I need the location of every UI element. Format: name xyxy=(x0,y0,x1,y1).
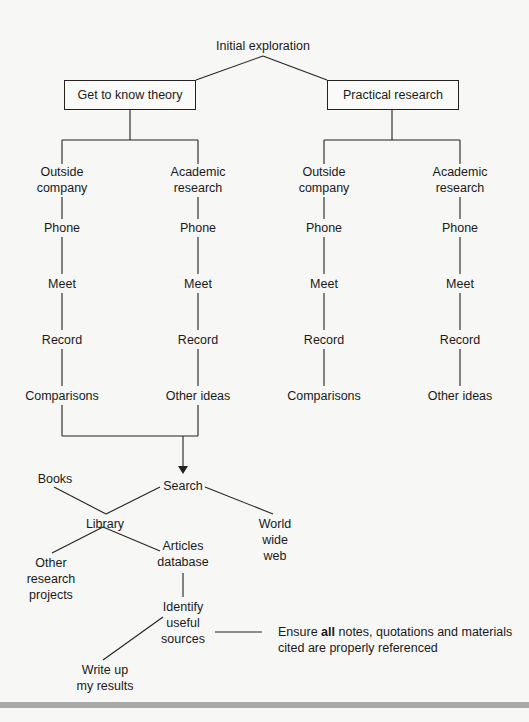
library-node: Library xyxy=(86,516,124,532)
other-research-projects-node: Otherresearchprojects xyxy=(27,555,76,603)
other-ideas-node: Other ideas xyxy=(428,388,493,404)
other-ideas-node: Other ideas xyxy=(166,388,231,404)
phone-node: Phone xyxy=(442,220,478,236)
practical-box: Practical research xyxy=(327,80,459,110)
phone-node: Phone xyxy=(306,220,342,236)
meet-node: Meet xyxy=(48,276,76,292)
world-wide-web-node: Worldwideweb xyxy=(259,516,291,564)
comparisons-node: Comparisons xyxy=(25,388,99,404)
arrow-down-icon xyxy=(178,466,188,474)
root-node: Initial exploration xyxy=(216,38,310,54)
outside-company-node: Outsidecompany xyxy=(299,164,350,196)
meet-node: Meet xyxy=(184,276,212,292)
record-node: Record xyxy=(440,332,480,348)
record-node: Record xyxy=(304,332,344,348)
comparisons-node: Comparisons xyxy=(287,388,361,404)
academic-research-node: Academicresearch xyxy=(171,164,226,196)
theory-box: Get to know theory xyxy=(64,80,196,110)
research-flow-diagram: Initial exploration Get to know theory P… xyxy=(0,0,529,722)
books-node: Books xyxy=(38,471,73,487)
write-up-results-node: Write upmy results xyxy=(77,662,134,694)
phone-node: Phone xyxy=(44,220,80,236)
meet-node: Meet xyxy=(446,276,474,292)
phone-node: Phone xyxy=(180,220,216,236)
articles-database-node: Articlesdatabase xyxy=(157,538,208,570)
meet-node: Meet xyxy=(310,276,338,292)
outside-company-node: Outsidecompany xyxy=(37,164,88,196)
page-divider xyxy=(0,702,529,708)
identify-useful-sources-node: Identifyusefulsources xyxy=(161,599,205,647)
search-node: Search xyxy=(163,478,203,494)
academic-research-node: Academicresearch xyxy=(433,164,488,196)
referencing-note: Ensure all notes, quotations and materia… xyxy=(278,624,512,656)
record-node: Record xyxy=(42,332,82,348)
record-node: Record xyxy=(178,332,218,348)
